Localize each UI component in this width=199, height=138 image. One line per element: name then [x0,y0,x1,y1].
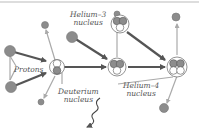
helium-3-nucleus [108,58,126,76]
helium-4-nucleus [167,57,187,77]
helium-4-label: Helium–4 nucleus [123,82,159,98]
proton-chain-diagram: Protons Deuterium nucleus Helium–3 nucle… [0,0,199,138]
helium-3-label-line2: nucleus [70,19,106,27]
deuterium-label: Deuterium nucleus [58,88,99,104]
protons-label: Protons [14,66,43,74]
helium-3-input-nucleus [111,15,129,33]
deuterium-label-line2: nucleus [58,96,99,104]
deuterium-nucleus [50,60,65,75]
helium-4-label-line2: nucleus [123,90,159,98]
dark-arrows [14,32,165,86]
helium-3-label: Helium–3 nucleus [70,11,106,27]
